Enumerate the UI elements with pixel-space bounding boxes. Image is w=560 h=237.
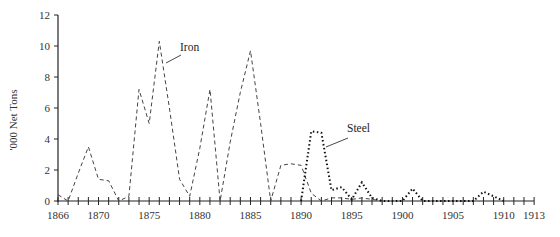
chart: '000 Net Tons 02468101218661870187518801… <box>0 0 560 237</box>
y-tick-label: 12 <box>39 9 50 21</box>
series-iron-label: Iron <box>180 41 199 53</box>
x-tick-label: 1866 <box>47 209 70 221</box>
x-tick-label: 1870 <box>88 209 111 221</box>
y-tick-label: 0 <box>45 195 51 207</box>
series-iron-line <box>58 41 382 201</box>
y-axis-title-text: '000 Net Tons <box>7 90 19 151</box>
y-axis-title: '000 Net Tons <box>7 90 19 151</box>
series-labels: IronSteel <box>166 41 370 147</box>
axes: 0246810121866187018751880188518901895190… <box>39 9 546 221</box>
y-tick-label: 4 <box>45 133 51 145</box>
series-steel-leader <box>326 138 348 147</box>
series-steel-line <box>301 131 504 201</box>
y-tick-label: 10 <box>39 40 51 52</box>
y-tick-label: 6 <box>45 102 51 114</box>
y-tick-label: 8 <box>45 71 51 83</box>
x-tick-label: 1895 <box>341 209 364 221</box>
y-tick-label: 2 <box>45 164 51 176</box>
x-tick-label: 1880 <box>189 209 212 221</box>
series-iron-leader <box>166 55 181 63</box>
series-layer <box>58 41 504 201</box>
x-tick-label: 1885 <box>239 209 262 221</box>
x-tick-label: 1900 <box>391 209 414 221</box>
x-tick-label: 1905 <box>442 209 465 221</box>
x-tick-label: 1875 <box>138 209 161 221</box>
line-chart: '000 Net Tons 02468101218661870187518801… <box>0 0 560 237</box>
x-tick-label: 1890 <box>290 209 313 221</box>
x-tick-label: 1913 <box>523 209 546 221</box>
series-steel-label: Steel <box>347 122 370 134</box>
x-tick-label: 1910 <box>493 209 516 221</box>
